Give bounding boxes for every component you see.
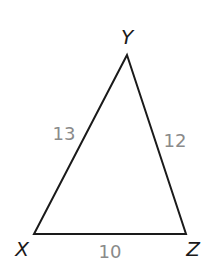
vertex-label-y: Y bbox=[121, 25, 135, 49]
triangle-diagram: Y X Z 13 12 10 bbox=[0, 0, 204, 275]
side-label-xy: 13 bbox=[53, 123, 76, 144]
side-label-xz: 10 bbox=[99, 241, 122, 262]
vertex-label-x: X bbox=[14, 237, 30, 261]
vertex-label-z: Z bbox=[185, 237, 201, 261]
side-label-yz: 12 bbox=[164, 130, 187, 151]
